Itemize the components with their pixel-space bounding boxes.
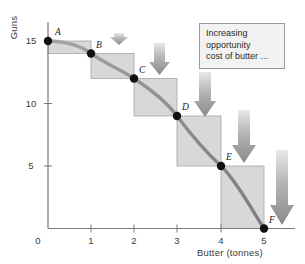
x-tick-label-4: 4 bbox=[212, 235, 230, 246]
callout-line-2: opportunity bbox=[206, 40, 279, 52]
cost-arrow-2 bbox=[149, 43, 170, 75]
x-axis-title: Butter (tonnes) bbox=[197, 247, 263, 258]
callout-line-1: Increasing bbox=[206, 28, 279, 40]
cost-arrow-4 bbox=[232, 110, 256, 163]
increasing-cost-callout: Increasing opportunity cost of butter ..… bbox=[199, 23, 285, 69]
ppf-chart-figure: Guns Butter (tonnes) 15 10 5 0 1 2 3 4 5… bbox=[0, 0, 305, 264]
point-label-a: A bbox=[55, 27, 61, 37]
point-label-e: E bbox=[226, 152, 232, 162]
cost-arrow-3 bbox=[194, 72, 216, 117]
point-label-c: C bbox=[139, 65, 145, 75]
y-tick-label-10: 10 bbox=[22, 98, 40, 109]
cost-arrow-5 bbox=[270, 150, 294, 225]
y-tick-label-15: 15 bbox=[22, 35, 40, 46]
point-label-d: D bbox=[182, 102, 189, 112]
data-point-e bbox=[217, 162, 225, 170]
data-point-d bbox=[173, 112, 181, 120]
x-tick-label-2: 2 bbox=[125, 235, 143, 246]
x-tick-label-5: 5 bbox=[255, 235, 273, 246]
data-point-b bbox=[87, 49, 95, 57]
callout-line-3: cost of butter ... bbox=[206, 51, 279, 63]
point-label-b: B bbox=[96, 40, 102, 50]
x-tick-label-1: 1 bbox=[82, 235, 100, 246]
y-axis-title: Guns bbox=[8, 8, 19, 48]
data-point-c bbox=[130, 74, 138, 82]
x-tick-label-0: 0 bbox=[29, 235, 47, 246]
cost-arrow-1 bbox=[110, 33, 128, 45]
data-point-f bbox=[260, 224, 268, 232]
data-point-a bbox=[44, 37, 52, 45]
point-label-f: F bbox=[269, 215, 275, 225]
y-tick-label-5: 5 bbox=[22, 160, 40, 171]
x-tick-label-3: 3 bbox=[168, 235, 186, 246]
